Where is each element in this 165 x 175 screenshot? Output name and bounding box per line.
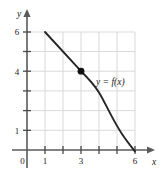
grid-lines [27,32,135,150]
y-tick-label-6: 6 [15,27,20,37]
y-tick-label-4: 4 [15,67,20,77]
graph-canvas: 0 1 3 6 1 4 6 y x y = f(x) [0,0,165,175]
origin-label: 0 [20,156,25,166]
function-annotation-label: y = f(x) [95,77,125,88]
y-tick-label-1: 1 [15,126,20,136]
y-axis-label: y [16,9,22,19]
function-curve [45,32,135,152]
y-axis-arrowhead [23,9,30,17]
x-tick-label-3: 3 [79,156,84,166]
marked-point-3-4 [78,68,85,75]
x-tick-label-1: 1 [43,156,48,166]
figure-graph-of-f: 0 1 3 6 1 4 6 y x y = f(x) [0,0,165,175]
x-axis-arrowhead [147,146,155,153]
x-tick-label-6: 6 [133,156,138,166]
x-axis-label: x [151,157,157,167]
